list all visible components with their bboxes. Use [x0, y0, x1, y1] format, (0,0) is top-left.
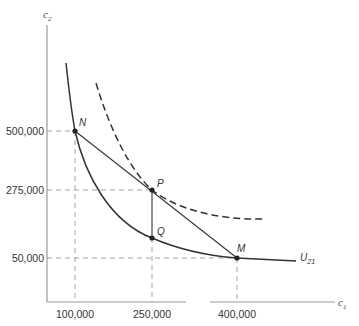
point-n [72, 128, 77, 133]
point-p [149, 187, 154, 192]
indifference-curve-dashed [96, 83, 263, 219]
label-m: M [237, 243, 246, 254]
x-tick-400000: 400,000 [218, 308, 256, 320]
label-p: P [157, 178, 164, 189]
label-q: Q [157, 226, 165, 237]
label-n: N [79, 117, 87, 128]
label-u21: U21 [300, 252, 315, 265]
y-axis-label: c2 [43, 8, 52, 23]
x-tick-100000: 100,000 [56, 308, 94, 320]
x-tick-250000: 250,000 [133, 308, 171, 320]
y-tick-275000: 275,000 [6, 184, 44, 196]
y-tick-500000: 500,000 [6, 125, 44, 137]
guide-lines [47, 131, 237, 302]
x-axis-label: c1 [338, 296, 346, 311]
point-m [234, 255, 239, 260]
y-tick-50000: 50,000 [12, 252, 44, 264]
indifference-curve-u21 [66, 63, 296, 261]
indifference-curve-diagram: c2 c1 500,000 275,000 50,000 100,000 250… [0, 0, 359, 326]
point-q [149, 235, 154, 240]
